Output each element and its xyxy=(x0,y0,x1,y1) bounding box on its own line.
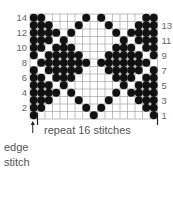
stitch-dot xyxy=(30,21,38,29)
stitch-dot xyxy=(67,29,75,37)
stitch-dot xyxy=(127,89,135,97)
stitch-dot xyxy=(60,44,68,52)
stitch-dot xyxy=(45,51,53,59)
stitch-dot xyxy=(142,21,150,29)
stitch-dot xyxy=(30,36,38,44)
stitch-dot xyxy=(45,89,53,97)
row-label-left: 4 xyxy=(22,87,27,98)
stitch-dot xyxy=(30,29,38,37)
stitch-dot xyxy=(37,74,45,82)
stitch-dot xyxy=(127,59,135,67)
stitch-dot xyxy=(142,36,150,44)
stitch-dot xyxy=(97,59,105,67)
row-label-left: 12 xyxy=(16,27,27,38)
stitch-dot xyxy=(127,51,135,59)
stitch-dot xyxy=(105,96,113,104)
stitch-dot xyxy=(75,59,83,67)
stitch-dot xyxy=(60,51,68,59)
stitch-dot xyxy=(45,36,53,44)
row-label-left: 6 xyxy=(22,72,27,83)
stitch-dot xyxy=(45,66,53,74)
stitch-dot xyxy=(52,51,60,59)
stitch-dot xyxy=(120,36,128,44)
stitch-dot xyxy=(127,29,135,37)
stitch-dot xyxy=(135,81,143,89)
stitch-dot xyxy=(150,21,158,29)
stitch-dot xyxy=(120,74,128,82)
stitch-dot xyxy=(120,81,128,89)
knitting-chart: 1412108642 131197531 xyxy=(0,0,173,206)
stitch-dot xyxy=(135,21,143,29)
stitch-dot xyxy=(52,44,60,52)
stitch-dot xyxy=(67,59,75,67)
stitch-dot xyxy=(37,59,45,67)
stitch-dot xyxy=(82,104,90,112)
stitch-dot xyxy=(45,96,53,104)
stitch-dot xyxy=(150,81,158,89)
edge-arrow-head xyxy=(31,121,35,125)
stitch-dot xyxy=(30,104,38,112)
stitch-dot xyxy=(150,74,158,82)
stitch-dot xyxy=(75,66,83,74)
stitch-dot xyxy=(105,66,113,74)
stitch-dot xyxy=(150,104,158,112)
left-row-labels: 1412108642 xyxy=(16,12,27,113)
stitch-dot xyxy=(30,66,38,74)
stitch-dot xyxy=(120,44,128,52)
stitch-dot xyxy=(37,81,45,89)
stitch-dot xyxy=(142,74,150,82)
stitch-dot xyxy=(142,89,150,97)
stitch-dot xyxy=(150,66,158,74)
row-label-right: 13 xyxy=(162,20,173,31)
stitch-dot xyxy=(112,89,120,97)
stitch-dot xyxy=(150,44,158,52)
stitch-dot xyxy=(150,96,158,104)
stitch-dot xyxy=(52,74,60,82)
stitch-dot xyxy=(30,51,38,59)
stitch-dot xyxy=(30,111,38,119)
stitch-dot xyxy=(142,104,150,112)
stitch-dot xyxy=(142,29,150,37)
stitch-dot xyxy=(135,66,143,74)
stitch-dot xyxy=(37,36,45,44)
stitch-dot xyxy=(30,89,38,97)
stitch-dot xyxy=(112,44,120,52)
stitch-dot xyxy=(150,111,158,119)
stitch-dot xyxy=(37,21,45,29)
stitch-dot xyxy=(30,81,38,89)
stitch-dot xyxy=(127,44,135,52)
edge-label-line1: edge xyxy=(4,141,28,154)
stitch-dot xyxy=(127,74,135,82)
stitch-dot xyxy=(150,51,158,59)
stitch-dot xyxy=(37,44,45,52)
stitch-dot xyxy=(60,66,68,74)
row-label-left: 2 xyxy=(22,102,27,113)
stitch-dot xyxy=(52,89,60,97)
stitch-dot xyxy=(37,29,45,37)
row-label-right: 9 xyxy=(162,50,167,61)
stitch-dot xyxy=(120,59,128,67)
stitch-dot xyxy=(142,59,150,67)
stitch-dot xyxy=(30,44,38,52)
stitch-dot xyxy=(45,29,53,37)
stitch-dot xyxy=(142,14,150,22)
stitch-dot xyxy=(112,59,120,67)
stitch-dot xyxy=(112,66,120,74)
right-row-labels: 131197531 xyxy=(162,20,173,121)
stitch-dot xyxy=(45,81,53,89)
stitch-dot xyxy=(142,81,150,89)
stitch-dot xyxy=(67,74,75,82)
stitch-dot xyxy=(75,96,83,104)
stitch-dot xyxy=(112,29,120,37)
row-label-right: 3 xyxy=(162,95,167,106)
stitch-dot xyxy=(120,51,128,59)
stitch-dot xyxy=(135,59,143,67)
stitch-dot xyxy=(127,66,135,74)
stitch-dot xyxy=(75,51,83,59)
stitch-dot xyxy=(135,96,143,104)
stitch-dot xyxy=(60,81,68,89)
row-label-left: 8 xyxy=(22,57,27,68)
stitch-dot xyxy=(105,51,113,59)
stitch-dot xyxy=(97,14,105,22)
stitch-dot xyxy=(37,89,45,97)
